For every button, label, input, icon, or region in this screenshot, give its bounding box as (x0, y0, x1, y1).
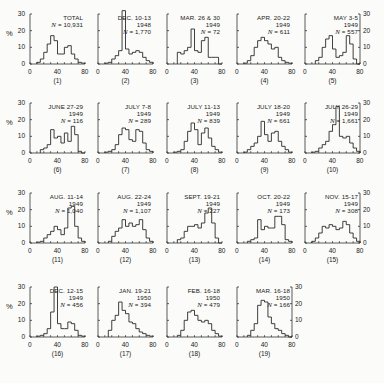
x-tick-label: 0 (165, 341, 169, 348)
x-tick-label: 40 (261, 157, 268, 164)
histogram-steps (108, 220, 153, 243)
histogram-panel: JULY 18-201949N = 66104080(9) (237, 97, 294, 177)
histogram-panel: MAR. 16-181950N = 16604080(19) (237, 281, 294, 361)
x-tick-label: 40 (261, 68, 268, 75)
panel-title: JAN. 19-21 (119, 287, 151, 294)
histogram-panel: NOV. 15-171949N = 30804080(15) (305, 187, 362, 267)
right-y-tick-label: 20 (363, 27, 370, 34)
x-tick-label: 80 (81, 247, 88, 254)
histogram-panel: JAN. 19-211950N = 39404080(17) (98, 281, 155, 361)
x-tick-label: 80 (218, 68, 225, 75)
panel-number: (2) (98, 77, 153, 84)
x-tick-label: 0 (235, 157, 239, 164)
y-axis-label: % (6, 118, 13, 127)
panel-number: (17) (98, 350, 153, 357)
x-tick-label: 0 (96, 341, 100, 348)
panel-title: APR. 20-22 (257, 14, 290, 21)
x-tick-label: 0 (96, 247, 100, 254)
y-tick-label: 20 (18, 206, 25, 213)
panel-title: JULY 11-13 (187, 103, 220, 110)
x-tick-label: 0 (165, 68, 169, 75)
y-tick-label: 30 (18, 189, 25, 196)
panel-year: 1949 (180, 21, 220, 28)
right-y-tick-label: 20 (363, 116, 370, 123)
panel-title: JULY 26-29 (325, 103, 358, 110)
panel-title: DEC. 12-15 (50, 287, 83, 294)
sample-size: N = 227 (184, 207, 220, 215)
right-y-tick-label: 30 (363, 189, 370, 196)
panel-caption: JULY 11-131949N = 839 (187, 103, 220, 126)
panel-caption: JULY 26-291949N = 1,661 (325, 103, 358, 126)
sample-size: N = 289 (125, 117, 151, 125)
panel-year: 1948 (118, 21, 151, 28)
x-tick-label: 0 (96, 157, 100, 164)
panel-number: (19) (237, 350, 292, 357)
sample-size: N = 661 (257, 117, 290, 125)
panel-title: TOTAL (51, 14, 83, 21)
sample-size: N = 611 (257, 28, 290, 36)
right-axis (358, 103, 360, 153)
x-tick-label: 40 (329, 68, 336, 75)
panel-caption: FEB. 16-181950N = 479 (188, 287, 220, 310)
sample-size: N = 394 (119, 301, 151, 309)
x-tick-label: 40 (122, 68, 129, 75)
panel-year: 1949 (50, 294, 83, 301)
x-tick-label: 40 (261, 247, 268, 254)
right-y-tick-label: 0 (295, 333, 299, 340)
x-tick-label: 0 (303, 247, 307, 254)
histogram-steps (40, 126, 85, 153)
y-tick-label: 30 (18, 283, 25, 290)
histogram-steps (244, 121, 292, 153)
right-y-tick-label: 30 (363, 99, 370, 106)
y-tick-label: 30 (18, 10, 25, 17)
panel-caption: JAN. 19-211950N = 394 (119, 287, 151, 310)
x-tick-label: 80 (149, 247, 156, 254)
right-y-tick-label: 30 (363, 10, 370, 17)
right-y-tick-label: 0 (363, 60, 367, 67)
x-tick-label: 40 (261, 341, 268, 348)
histogram-steps (177, 310, 222, 337)
histogram-steps (244, 37, 292, 64)
panel-title: JULY 7-8 (125, 103, 151, 110)
x-tick-label: 80 (356, 157, 363, 164)
y-tick-label: 10 (18, 222, 25, 229)
panel-title: OCT. 20-22 (257, 193, 290, 200)
panel-number: (16) (30, 350, 85, 357)
panel-number: (10) (305, 166, 360, 173)
panel-caption: MAR. 26 & 301949N = 72 (180, 14, 220, 37)
sample-size: N = 557 (334, 28, 358, 36)
x-tick-label: 80 (288, 68, 295, 75)
right-y-tick-label: 10 (363, 43, 370, 50)
panel-number: (1) (30, 77, 85, 84)
right-y-tick-label: 10 (363, 132, 370, 139)
x-tick-label: 80 (218, 341, 225, 348)
panel-year: 1949 (184, 200, 220, 207)
panel-caption: JULY 18-201949N = 661 (257, 103, 290, 126)
panel-year: 1949 (125, 110, 151, 117)
right-y-tick-label: 0 (363, 149, 367, 156)
panel-year: 1949 (117, 200, 151, 207)
x-tick-label: 80 (149, 68, 156, 75)
panel-caption: MAY 3-51949N = 557 (334, 14, 358, 37)
histogram-panel: JULY 7-81949N = 28904080(7) (98, 97, 155, 177)
right-y-tick-label: 30 (295, 283, 302, 290)
y-axis-label: % (6, 208, 13, 217)
panel-number: (11) (30, 256, 85, 263)
x-tick-label: 40 (329, 247, 336, 254)
panel-title: SEPT. 19-21 (184, 193, 220, 200)
panel-title: AUG. 22-24 (117, 193, 151, 200)
right-axis (358, 193, 360, 243)
x-tick-label: 80 (149, 157, 156, 164)
panel-title: NOV. 15-17 (325, 193, 358, 200)
panel-title: MAY 3-5 (334, 14, 358, 21)
x-tick-label: 0 (165, 157, 169, 164)
right-axis (358, 14, 360, 64)
panel-title: JUNE 27-29 (48, 103, 83, 110)
x-tick-label: 80 (218, 247, 225, 254)
x-tick-label: 40 (122, 247, 129, 254)
histogram-steps (315, 36, 360, 64)
y-axis-label: % (6, 302, 13, 311)
y-tick-label: 0 (21, 333, 25, 340)
x-tick-label: 40 (191, 341, 198, 348)
y-tick-label: 20 (18, 116, 25, 123)
